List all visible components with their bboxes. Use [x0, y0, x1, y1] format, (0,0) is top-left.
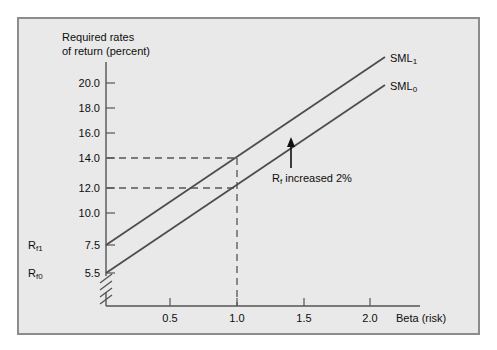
shift-annotation-sub: f	[280, 177, 282, 186]
sml0-label: SML0	[390, 80, 417, 94]
rf1-label-base: R	[28, 239, 36, 251]
sml0-label-sub: 0	[413, 85, 417, 94]
rf0-label: Rf0	[28, 267, 43, 281]
figure-page: Required rates of return (percent) 20.0 …	[0, 0, 497, 350]
y-tick-label-10: 10.0	[60, 207, 100, 220]
sml0-label-base: SML	[390, 80, 413, 92]
x-axis-title: Beta (risk)	[396, 312, 446, 325]
shift-annotation-text: Rf increased 2%	[272, 172, 352, 186]
y-tick-label-16: 16.0	[60, 127, 100, 140]
rf0-label-sub: f0	[36, 272, 43, 281]
sml1-line	[106, 57, 385, 245]
y-axis-title-line2: of return (percent)	[62, 44, 150, 58]
y-tick-label-20: 20.0	[60, 77, 100, 90]
shift-annotation-base: R	[272, 172, 280, 184]
sml1-label: SML1	[390, 52, 417, 66]
sml1-label-base: SML	[390, 52, 413, 64]
x-tick-label-1-5: 1.5	[284, 312, 324, 325]
y-tick-label-7-5: 7.5	[60, 239, 100, 252]
x-tick-label-1-0: 1.0	[217, 312, 257, 325]
y-tick-label-14: 14.0	[60, 152, 100, 165]
y-tick-label-5-5: 5.5	[60, 267, 100, 280]
x-tick-label-2-0: 2.0	[350, 312, 390, 325]
rf0-label-base: R	[28, 267, 36, 279]
y-axis-title: Required rates of return (percent)	[62, 30, 150, 58]
y-axis-title-line1: Required rates	[62, 30, 150, 44]
y-tick-label-12: 12.0	[60, 182, 100, 195]
shift-arrow-head	[287, 137, 295, 147]
shift-annotation-tail: increased 2%	[282, 172, 352, 184]
rf1-label-sub: f1	[36, 244, 43, 253]
y-tick-label-18: 18.0	[60, 102, 100, 115]
rf1-label: Rf1	[28, 239, 43, 253]
sml1-label-sub: 1	[413, 57, 417, 66]
x-tick-label-0-5: 0.5	[150, 312, 190, 325]
